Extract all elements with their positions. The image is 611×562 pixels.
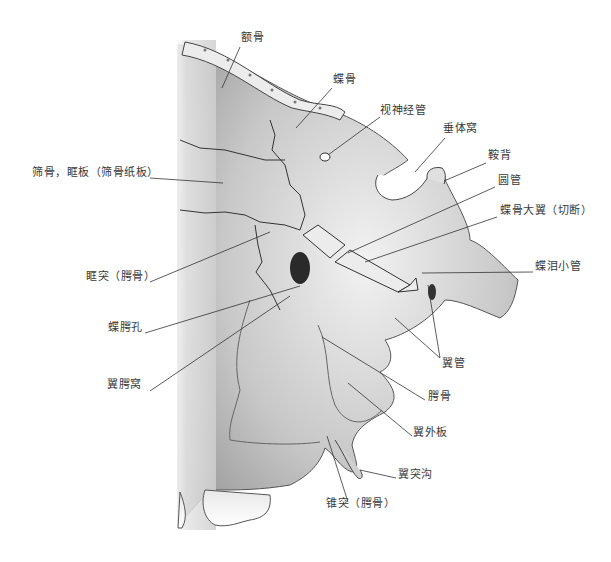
label-orbital-process-palatine: 眶突（腭骨） bbox=[86, 270, 155, 283]
label-palatine-bone: 腭骨 bbox=[428, 390, 451, 403]
label-lateral-pterygoid-plate: 翼外板 bbox=[413, 426, 448, 439]
label-sphenoid-bone: 蝶骨 bbox=[333, 73, 356, 86]
label-palatovaginal-canal: 蝶泪小管 bbox=[535, 260, 581, 273]
label-foramen-rotundum: 圆管 bbox=[498, 174, 521, 187]
label-pterygoid-canal: 翼管 bbox=[442, 357, 465, 370]
label-ethmoid-orbital-plate: 筛骨，眶板（筛骨纸板） bbox=[32, 166, 159, 179]
label-pterygoid-hamulus-groove: 翼突沟 bbox=[398, 468, 433, 481]
label-frontal-bone: 额骨 bbox=[241, 31, 264, 44]
label-sphenopalatine-foramen: 蝶腭孔 bbox=[108, 321, 143, 334]
label-greater-wing-cut: 蝶骨大翼（切断） bbox=[500, 204, 592, 217]
label-optic-canal: 视神经管 bbox=[380, 104, 426, 117]
label-pyramidal-process-palatine: 锥突（腭骨） bbox=[326, 497, 395, 510]
label-hypophyseal-fossa: 垂体窝 bbox=[443, 122, 478, 135]
label-dorsum-sellae: 鞍背 bbox=[488, 149, 511, 162]
anatomy-diagram: 额骨 蝶骨 视神经管 垂体窝 筛骨，眶板（筛骨纸板） 鞍背 圆管 蝶骨大翼（切断… bbox=[0, 0, 611, 562]
sphenopalatine-foramen-shadow bbox=[290, 252, 310, 284]
label-pterygopalatine-fossa: 翼腭窝 bbox=[107, 378, 142, 391]
